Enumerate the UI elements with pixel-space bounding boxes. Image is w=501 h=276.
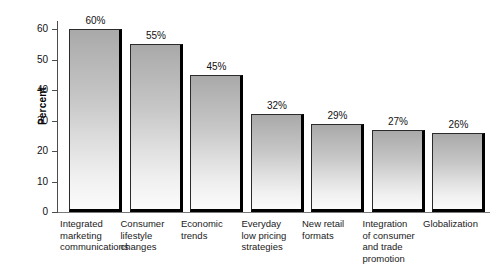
category-label-line: of consumer xyxy=(363,230,430,242)
category-label-line: Economic xyxy=(181,218,248,230)
category-label-line: marketing xyxy=(60,230,127,242)
x-axis-category-label: Economictrends xyxy=(181,218,248,241)
category-label-line: Integration xyxy=(363,218,430,230)
x-axis-category-label: Integrationof consumerand tradepromotion xyxy=(363,218,430,264)
category-label-line: Consumer xyxy=(121,218,188,230)
category-label-line: formats xyxy=(302,230,369,242)
category-label-line: low pricing xyxy=(242,230,309,242)
category-label-line: promotion xyxy=(363,253,430,265)
bar[interactable] xyxy=(432,133,485,212)
bar-value-label: 26% xyxy=(424,119,493,130)
x-axis-category-label: Globalization xyxy=(423,218,490,230)
bar-value-label: 60% xyxy=(61,15,130,26)
bar-value-label: 45% xyxy=(182,61,251,72)
bar-chart: Percent 0102030405060 60%Integratedmarke… xyxy=(0,0,501,276)
category-label-line: Globalization xyxy=(423,218,490,230)
category-label-line: Everyday xyxy=(242,218,309,230)
bar-value-label: 29% xyxy=(303,110,372,121)
bar[interactable] xyxy=(130,44,183,212)
category-label-line: lifestyle xyxy=(121,230,188,242)
category-label-line: communications xyxy=(60,241,127,253)
x-axis-category-label: Everydaylow pricingstrategies xyxy=(242,218,309,253)
category-label-line: and trade xyxy=(363,241,430,253)
category-label-line: Integrated xyxy=(60,218,127,230)
x-axis-category-label: Consumerlifestylechanges xyxy=(121,218,188,253)
bar[interactable] xyxy=(372,130,425,212)
bar[interactable] xyxy=(69,29,122,212)
x-axis-category-label: Integratedmarketingcommunications xyxy=(60,218,127,253)
category-label-line: New retail xyxy=(302,218,369,230)
bar[interactable] xyxy=(190,75,243,212)
bar-value-label: 55% xyxy=(122,30,191,41)
bar[interactable] xyxy=(251,114,304,212)
category-label-line: strategies xyxy=(242,241,309,253)
category-label-line: trends xyxy=(181,230,248,242)
plot-area: 60%Integratedmarketingcommunications55%C… xyxy=(0,0,501,276)
bar[interactable] xyxy=(311,124,364,212)
x-axis-category-label: New retailformats xyxy=(302,218,369,241)
bar-value-label: 32% xyxy=(243,100,312,111)
bar-value-label: 27% xyxy=(364,116,433,127)
category-label-line: changes xyxy=(121,241,188,253)
